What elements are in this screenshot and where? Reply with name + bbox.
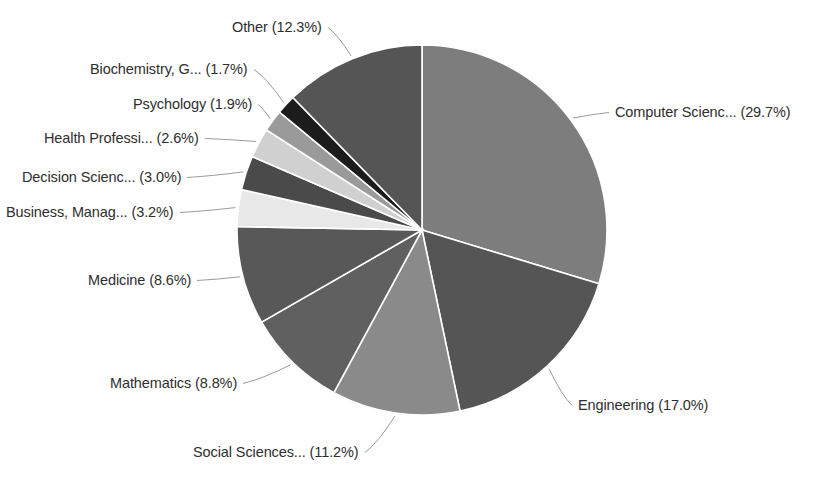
leader-line (254, 70, 284, 103)
pie-label-biochemistry: Biochemistry, G... (1.7%) (90, 62, 248, 77)
pie-label-mathematics: Mathematics (8.8%) (110, 376, 237, 391)
leader-line (205, 139, 256, 142)
pie-label-medicine: Medicine (8.6%) (88, 273, 191, 288)
leader-line (328, 28, 351, 56)
leader-line (197, 277, 240, 281)
leader-line (187, 172, 243, 178)
pie-label-engineering: Engineering (17.0%) (578, 398, 708, 413)
leader-line (549, 369, 572, 406)
leader-line (243, 365, 291, 384)
leader-line (180, 208, 235, 213)
pie-slices-group (237, 45, 607, 415)
leader-line (365, 416, 395, 453)
pie-label-decision-sciences: Decision Scienc... (3.0%) (22, 170, 181, 185)
pie-label-other: Other (12.3%) (232, 20, 322, 35)
pie-chart-figure: Other (12.3%) Biochemistry, G... (1.7%) … (0, 0, 821, 479)
pie-label-health-professions: Health Professi... (2.6%) (44, 131, 199, 146)
leader-line (258, 105, 270, 120)
leader-line (573, 113, 609, 119)
pie-label-computer-science: Computer Scienc... (29.7%) (615, 105, 791, 120)
pie-label-business-management: Business, Manag... (3.2%) (6, 205, 174, 220)
pie-label-psychology: Psychology (1.9%) (133, 97, 252, 112)
pie-label-social-sciences: Social Sciences... (11.2%) (193, 445, 359, 460)
